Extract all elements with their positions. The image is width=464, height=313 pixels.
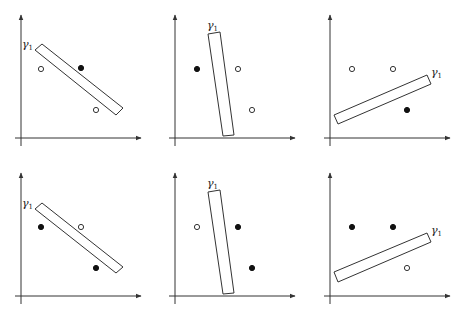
filled-point xyxy=(93,265,98,270)
hollow-point xyxy=(194,224,199,229)
gamma-label: γ1 xyxy=(22,38,33,52)
gamma-label: γ1 xyxy=(207,177,218,191)
filled-point xyxy=(235,224,240,229)
diagram-canvas: γ1γ1γ1γ1γ1γ1 xyxy=(0,0,464,313)
filled-point xyxy=(390,224,395,229)
panel-bottom-middle: γ1 xyxy=(169,173,295,304)
slab-rectangle xyxy=(208,190,234,294)
slab-rectangle xyxy=(334,233,431,282)
panel-top-left: γ1 xyxy=(15,15,141,146)
panel-bottom-right: γ1 xyxy=(324,173,450,304)
gamma-label: γ1 xyxy=(431,66,442,80)
gamma-label: γ1 xyxy=(431,224,442,238)
hollow-point xyxy=(249,107,254,112)
filled-point xyxy=(349,224,354,229)
hollow-point xyxy=(93,107,98,112)
panel-top-right: γ1 xyxy=(324,15,450,146)
hollow-point xyxy=(78,224,83,229)
hollow-point xyxy=(390,66,395,71)
panel-top-middle: γ1 xyxy=(169,15,295,146)
filled-point xyxy=(194,66,199,71)
hollow-point xyxy=(404,265,409,270)
slab-rectangle xyxy=(334,75,431,124)
hollow-point xyxy=(235,66,240,71)
slab-rectangle xyxy=(35,203,123,273)
slab-rectangle xyxy=(35,44,123,115)
hollow-point xyxy=(349,66,354,71)
gamma-label: γ1 xyxy=(207,19,218,33)
filled-point xyxy=(78,65,83,70)
hollow-point xyxy=(38,66,43,71)
filled-point xyxy=(249,265,254,270)
panel-bottom-left: γ1 xyxy=(15,173,141,304)
gamma-label: γ1 xyxy=(22,197,33,211)
slab-rectangle xyxy=(208,32,234,136)
filled-point xyxy=(38,224,43,229)
filled-point xyxy=(404,107,409,112)
